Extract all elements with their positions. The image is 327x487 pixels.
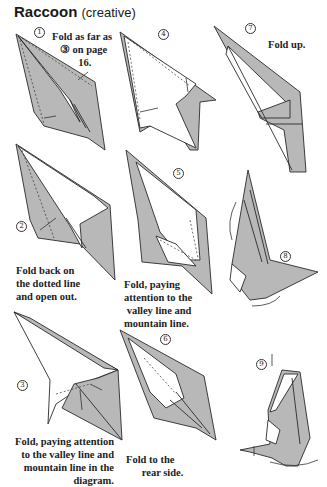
step-number-6: 6 bbox=[160, 334, 171, 345]
step-number-3: 3 bbox=[17, 380, 28, 391]
step-number-9: 9 bbox=[256, 359, 267, 370]
step-number-8: 8 bbox=[280, 251, 291, 262]
step-3-diagram bbox=[14, 312, 122, 440]
step-1-caption: Fold as far as ③ on page 16. bbox=[52, 30, 112, 69]
step-number-4: 4 bbox=[158, 29, 169, 40]
step-5-diagram bbox=[126, 150, 212, 294]
step-9-diagram bbox=[240, 354, 318, 466]
step-5-caption: Fold, paying attention to the valley lin… bbox=[124, 278, 192, 330]
step-6-caption: Fold to the rear side. bbox=[126, 453, 183, 479]
step-6-diagram bbox=[120, 330, 216, 440]
step-7-caption: Fold up. bbox=[268, 38, 305, 51]
step-4-diagram bbox=[120, 32, 216, 150]
step-number-1: 1 bbox=[34, 27, 45, 38]
step-3-caption: Fold, paying attention to the valley lin… bbox=[10, 435, 114, 487]
step-number-7: 7 bbox=[245, 23, 256, 34]
step-number-5: 5 bbox=[173, 168, 184, 179]
step-8-diagram bbox=[230, 170, 318, 306]
step-number-2: 2 bbox=[16, 221, 27, 232]
step-2-caption: Fold back on the dotted line and open ou… bbox=[16, 264, 80, 303]
step-2-diagram bbox=[16, 144, 115, 280]
